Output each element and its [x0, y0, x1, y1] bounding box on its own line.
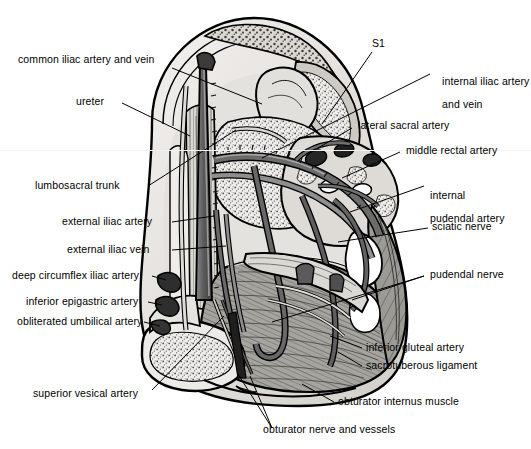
label-inferior-epigastric-artery: inferior epigastric artery — [26, 296, 138, 308]
label-superior-vesical-artery: superior vesical artery — [33, 388, 138, 400]
label-obturator-internus-muscle: obturator internus muscle — [338, 396, 459, 408]
label-obliterated-umbilical-artery: obliterated umbilical artery — [17, 316, 142, 328]
label-internal-iliac-line2: and vein — [442, 98, 483, 110]
label-ureter: ureter — [76, 96, 104, 108]
label-s1: S1 — [372, 38, 385, 50]
label-pudendal-nerve: pudendal nerve — [430, 269, 504, 281]
label-common-iliac-artery-and-vein: common iliac artery and vein — [18, 54, 154, 66]
label-internal-pudendal-artery: internal pudendal artery — [424, 178, 505, 224]
label-sciatic-nerve: sciatic nerve — [432, 221, 492, 233]
label-external-iliac-artery: external iliac artery — [62, 216, 152, 228]
label-middle-rectal-artery: middle rectal artery — [406, 145, 497, 157]
label-sacrotuberous-ligament: sacrotuberous ligament — [366, 360, 477, 372]
label-inferior-gluteal-artery: inferior gluteal artery — [366, 342, 464, 354]
label-external-iliac-vein: external iliac vein — [67, 244, 149, 256]
label-lumbosacral-trunk: lumbosacral trunk — [35, 180, 120, 192]
label-internal-iliac-line1: internal iliac artery — [442, 75, 529, 87]
label-internal-pudendal-line1: internal — [430, 189, 465, 201]
label-internal-iliac-artery-and-vein: internal iliac artery and vein — [436, 64, 529, 110]
label-lateral-sacral-artery: lateral sacral artery — [358, 120, 449, 132]
label-deep-circumflex-iliac-artery: deep circumflex iliac artery — [12, 270, 139, 282]
label-obturator-nerve-and-vessels: obturator nerve and vessels — [263, 424, 395, 436]
